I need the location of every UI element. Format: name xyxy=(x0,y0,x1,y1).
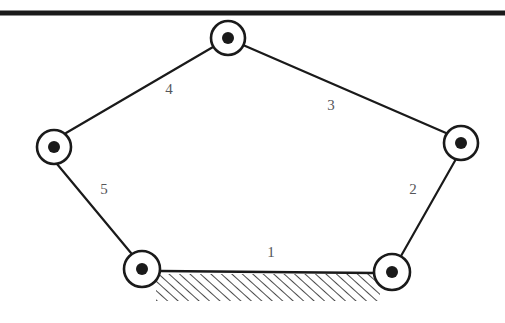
revolute-joint-right xyxy=(444,126,478,160)
revolute-joint-top-pin xyxy=(222,32,234,44)
revolute-joint-left xyxy=(37,130,71,164)
joints-group xyxy=(37,21,478,290)
linkage-diagram-canvas: 12345 xyxy=(0,0,505,323)
revolute-joint-bottom-left-pin xyxy=(136,263,148,275)
revolute-joint-bottom-left xyxy=(124,251,160,287)
link-label-1: 1 xyxy=(267,244,275,260)
revolute-joint-bottom-right-pin xyxy=(386,266,398,278)
link-bar-3 xyxy=(243,45,446,133)
link-label-3: 3 xyxy=(327,97,335,113)
link-bar-4 xyxy=(66,47,213,133)
link-label-5: 5 xyxy=(100,181,108,197)
links-group xyxy=(57,45,456,273)
revolute-joint-left-pin xyxy=(48,141,60,153)
link-label-4: 4 xyxy=(165,81,173,97)
revolute-joint-right-pin xyxy=(455,137,467,149)
link-bar-5 xyxy=(57,164,131,253)
link-bar-1 xyxy=(160,271,375,273)
linkage-diagram-figure: 12345 xyxy=(0,0,505,323)
link-label-2: 2 xyxy=(409,181,417,197)
ground-hatching xyxy=(156,274,380,301)
revolute-joint-top xyxy=(211,21,245,55)
ground-hatching-group xyxy=(156,274,380,301)
link-labels-group: 12345 xyxy=(100,81,417,260)
link-bar-2 xyxy=(401,159,456,256)
revolute-joint-bottom-right xyxy=(374,254,410,290)
